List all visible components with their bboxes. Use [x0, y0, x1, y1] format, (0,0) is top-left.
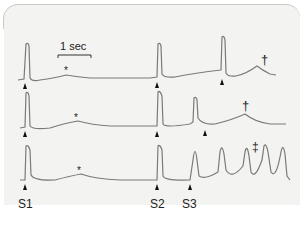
arrowhead-icon	[23, 83, 27, 89]
arrowhead-icon	[188, 184, 192, 190]
arrowhead-icon	[203, 130, 207, 136]
star-annotation: *	[77, 165, 81, 176]
action-potential-traces	[0, 0, 305, 229]
arrowhead-icon	[23, 184, 27, 190]
stimulus-label-s3: S3	[182, 197, 197, 211]
trace-3	[20, 145, 290, 180]
trace-1	[18, 36, 276, 80]
stimulus-label-s2: S2	[150, 197, 165, 211]
arrowhead-icon	[155, 131, 159, 137]
arrowhead-icon	[155, 184, 159, 190]
dagger-annotation: †	[242, 98, 249, 113]
scale-bar	[58, 55, 91, 58]
stimulus-markers	[23, 79, 224, 190]
stimulus-label-s1: S1	[18, 197, 33, 211]
arrowhead-icon	[155, 82, 159, 88]
star-annotation: *	[74, 112, 78, 123]
star-annotation: *	[64, 65, 68, 76]
scale-bar-label: 1 sec	[60, 40, 86, 52]
dagger-annotation: †	[261, 52, 268, 67]
arrowhead-icon	[23, 131, 27, 137]
double-dagger-annotation: ‡	[252, 140, 259, 154]
arrowhead-icon	[220, 79, 224, 85]
